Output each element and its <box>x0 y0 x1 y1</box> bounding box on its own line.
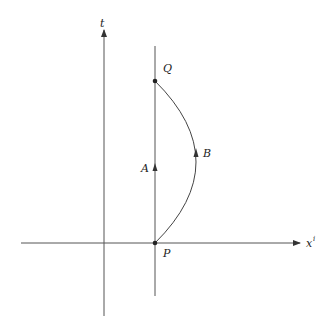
point-q-label: Q <box>163 62 172 75</box>
spacetime-diagram: t x i Q P A B <box>0 0 334 331</box>
point-q <box>153 79 158 84</box>
path-a-label: A <box>140 162 149 175</box>
x-axis-label: x <box>306 237 313 250</box>
point-p <box>153 241 158 246</box>
arrow-b-icon <box>194 148 199 157</box>
x-axis-superscript: i <box>313 235 315 243</box>
worldline-b <box>155 81 199 243</box>
path-b-label: B <box>202 147 211 160</box>
worldline-a <box>153 46 158 296</box>
point-p-label: P <box>162 247 171 260</box>
t-axis-label: t <box>100 17 105 30</box>
arrow-a-icon <box>153 163 158 171</box>
